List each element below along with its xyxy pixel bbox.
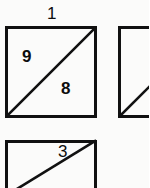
square-3-label: 3 <box>58 143 67 160</box>
square-1-digit-lower: 8 <box>61 80 70 97</box>
square-2-shape <box>120 28 150 117</box>
figure-canvas: 1 9 8 3 <box>0 0 149 188</box>
square-1-digit-upper: 9 <box>22 48 31 65</box>
square-3-diagonal <box>12 141 95 188</box>
square-1-label: 1 <box>47 5 56 22</box>
square-3-shape <box>7 141 96 188</box>
square-2-diagonal <box>120 84 149 116</box>
square-1-shape <box>7 28 96 117</box>
squares-vector-layer <box>0 0 149 188</box>
square-1-diagonal <box>7 28 95 116</box>
